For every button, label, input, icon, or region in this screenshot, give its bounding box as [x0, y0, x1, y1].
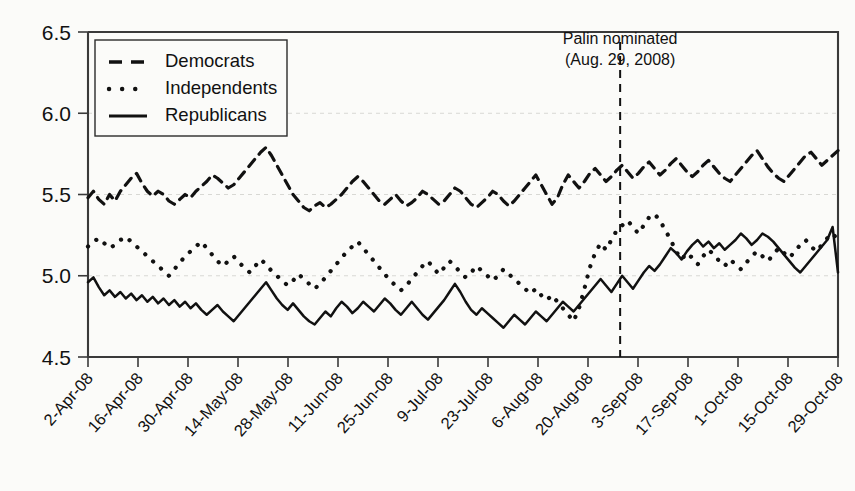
- annotation-line-1: Palin nominated: [563, 30, 678, 47]
- y-tick-label: 6.5: [42, 21, 71, 44]
- y-tick-label: 6.0: [42, 102, 71, 125]
- y-tick-label: 5.5: [42, 183, 71, 206]
- y-tick-label: 4.5: [42, 346, 71, 369]
- line-chart: 4.55.05.56.06.5 2-Apr-0816-Apr-0830-Apr-…: [0, 0, 855, 491]
- legend-label: Independents: [165, 77, 277, 98]
- y-tick-label: 5.0: [42, 264, 71, 287]
- legend-label: Republicans: [165, 104, 267, 125]
- annotation-line-2: (Aug. 29, 2008): [565, 51, 675, 68]
- chart-legend: DemocratsIndependentsRepublicans: [95, 40, 287, 136]
- legend-label: Democrats: [165, 50, 254, 71]
- chart-container: 4.55.05.56.06.5 2-Apr-0816-Apr-0830-Apr-…: [0, 0, 855, 491]
